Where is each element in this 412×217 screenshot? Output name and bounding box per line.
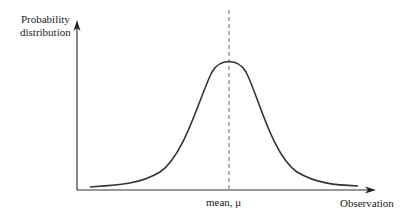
x-axis-label: Observation: [340, 197, 394, 209]
y-axis-label-line2: distribution: [20, 26, 71, 39]
y-axis-label: Probability distribution: [20, 13, 71, 39]
distribution-curve: [90, 62, 358, 188]
mean-label: mean, μ: [206, 196, 241, 208]
y-axis-label-line1: Probability: [20, 13, 71, 26]
